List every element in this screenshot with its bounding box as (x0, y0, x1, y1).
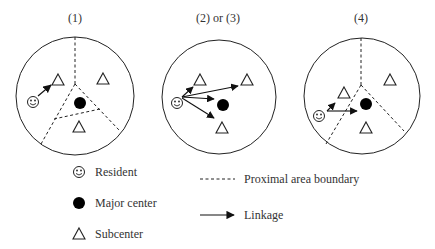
linkage-arrows (182, 86, 238, 118)
diagram-canvas: (1) (2) or (3) (4) (0, 0, 435, 249)
linkage-arrows (327, 103, 357, 111)
linkage-arrow (38, 85, 51, 96)
subcenter-icon (216, 122, 228, 133)
legend-resident-icon (74, 167, 85, 178)
region-circle (304, 38, 420, 154)
major-center-icon (217, 99, 229, 111)
subcenter-icon (384, 74, 396, 85)
legend: Resident Major center Subcenter Proximal… (73, 165, 359, 241)
legend-subcenter-icon (73, 228, 85, 239)
panel-3: (4) (304, 11, 420, 154)
subcenter-icon (97, 73, 109, 84)
resident-icon (314, 111, 325, 122)
panel-1: (1) (16, 11, 134, 155)
panel-1-title: (1) (68, 11, 82, 25)
subcenter-icon (241, 74, 253, 85)
subcenter-icon (73, 121, 85, 132)
legend-boundary-label: Proximal area boundary (244, 172, 359, 186)
subcenter-icon (52, 74, 64, 85)
legend-major-center-label: Major center (95, 196, 157, 210)
legend-major-center-icon (73, 197, 85, 209)
panel-2-title: (2) or (3) (196, 11, 240, 25)
major-center-icon (74, 97, 86, 109)
legend-subcenter-label: Subcenter (95, 227, 143, 241)
region-circle (162, 40, 276, 154)
resident-icon (172, 98, 183, 109)
panel-3-title: (4) (354, 11, 368, 25)
subcenter-icon (194, 74, 206, 85)
legend-resident-label: Resident (95, 165, 138, 179)
legend-linkage-label: Linkage (244, 208, 283, 222)
major-center-icon (360, 98, 372, 110)
subcenter-icon (360, 122, 372, 133)
subcenter-icon (338, 87, 350, 98)
resident-icon (28, 97, 39, 108)
panel-2: (2) or (3) (162, 11, 276, 154)
